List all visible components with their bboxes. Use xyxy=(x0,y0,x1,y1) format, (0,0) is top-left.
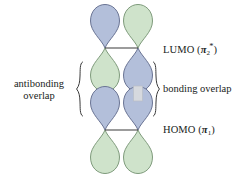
lobe-lumo-right-bottom-blue xyxy=(124,48,153,92)
antibonding-overlap-label: antibonding overlap xyxy=(6,78,72,102)
lobe-homo-left-bottom-green xyxy=(91,130,120,174)
bonding-label-line1: bonding overlap xyxy=(163,83,232,95)
homo-close-paren: ) xyxy=(211,124,215,135)
orbital-lumo xyxy=(91,5,153,92)
antibonding-label-line2: overlap xyxy=(6,90,72,102)
homo-name: HOMO xyxy=(163,124,196,135)
overlap-band-rect xyxy=(134,86,143,101)
bonding-overlap-band xyxy=(134,86,143,101)
lobe-lumo-left-top-blue xyxy=(91,5,120,49)
brace-left-antibonding xyxy=(77,62,83,116)
orbital-homo xyxy=(91,87,153,174)
lumo-close-paren: ) xyxy=(213,44,217,55)
lobe-homo-right-bottom-green xyxy=(124,130,153,174)
bonding-overlap-label: bonding overlap xyxy=(163,83,232,95)
brace-right-bonding xyxy=(154,62,160,116)
orbital-overlap-figure: LUMO (π2*) HOMO (π1) antibonding overlap… xyxy=(0,0,249,177)
lumo-orbital-label: LUMO (π2*) xyxy=(163,42,217,57)
antibonding-label-line1: antibonding xyxy=(6,78,72,90)
lumo-name: LUMO xyxy=(163,44,194,55)
lobe-lumo-left-bottom-green xyxy=(91,48,120,92)
homo-orbital-label: HOMO (π1) xyxy=(163,124,215,138)
lobe-lumo-right-top-green xyxy=(124,5,153,49)
lobe-homo-left-top-blue xyxy=(91,87,120,131)
